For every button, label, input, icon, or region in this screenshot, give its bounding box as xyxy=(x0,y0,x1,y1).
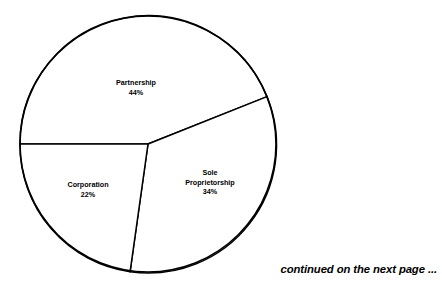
pie-label-partnership: Partnership 44% xyxy=(78,78,194,97)
pie-label-sole-proprietorship-name: Sole xyxy=(152,168,268,178)
pie-label-corporation-percent: 22% xyxy=(30,190,146,200)
pie-label-sole-proprietorship-percent: 34% xyxy=(152,187,268,197)
pie-label-sole-proprietorship-name-line2: Proprietorship xyxy=(152,178,268,188)
page-root: Number of Small Businesses Partnership 4… xyxy=(0,0,442,297)
continued-next-page-note: continued on the next page ... xyxy=(281,263,437,275)
pie-chart-svg xyxy=(0,0,442,297)
pie-label-partnership-percent: 44% xyxy=(78,88,194,98)
pie-label-corporation: Corporation 22% xyxy=(30,180,146,199)
pie-slice-corporation[interactable] xyxy=(20,144,148,272)
pie-label-partnership-name: Partnership xyxy=(78,78,194,88)
pie-label-corporation-name: Corporation xyxy=(30,180,146,190)
pie-chart-figure: Partnership 44% Sole Proprietorship 34% … xyxy=(0,0,442,297)
pie-label-sole-proprietorship: Sole Proprietorship 34% xyxy=(152,168,268,197)
